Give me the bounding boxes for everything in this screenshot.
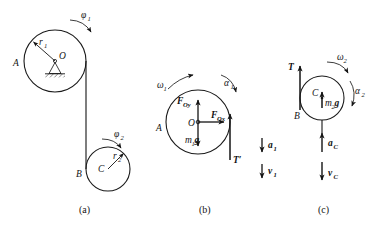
label-vc-subscript: C [334, 173, 339, 180]
panel-c: ω 2 α 2 T m 2 g C B a C v C (c) [288, 52, 366, 216]
phi2-curved-arrow [102, 139, 121, 148]
label-t: T [288, 62, 295, 72]
label-r2: r [113, 151, 117, 161]
label-vc: v [328, 168, 333, 178]
pivot-triangle [49, 63, 61, 74]
label-c-c: C [312, 88, 319, 98]
panel-b: ω 1 α 1 F Oy F Ox m 1 g O A T′ a 1 v 1 (… [155, 75, 277, 216]
label-ac: a [328, 138, 333, 148]
omega2-curved-arrow [327, 62, 348, 73]
label-alpha1-subscript: 1 [231, 83, 234, 90]
label-o-a: O [59, 51, 66, 61]
label-alpha2: α [355, 86, 361, 96]
label-v1-subscript: 1 [274, 171, 277, 178]
label-omega1-subscript: 1 [164, 85, 167, 92]
diagram-canvas: φ 1 φ 2 r 1 r 2 O A B C (a) [0, 0, 381, 231]
ground-hatching [45, 74, 65, 77]
label-r1-subscript: 1 [44, 42, 47, 49]
label-f-oy-subscript: Oy [183, 101, 191, 108]
label-b-c: B [294, 111, 300, 121]
alpha2-curved-arrow [350, 81, 354, 106]
omega1-curved-arrow [168, 75, 193, 89]
label-a1: a [268, 140, 273, 150]
label-v1: v [268, 166, 273, 176]
label-a-b: A [155, 123, 162, 133]
label-a-point: A [12, 58, 19, 68]
label-r2-subscript: 2 [118, 156, 122, 163]
label-phi2: φ [114, 129, 119, 139]
caption-b: (b) [199, 204, 211, 216]
label-a1-subscript: 1 [274, 145, 277, 152]
label-phi1: φ [81, 10, 86, 20]
label-ac-subscript: C [334, 143, 339, 150]
label-phi2-subscript: 2 [121, 134, 125, 141]
label-phi1-subscript: 1 [88, 15, 91, 22]
label-c-point: C [98, 164, 105, 174]
label-alpha2-subscript: 2 [362, 91, 366, 98]
label-f-ox-subscript: Ox [217, 115, 226, 122]
label-t-prime: T′ [233, 155, 242, 165]
label-m2g-g: g [334, 98, 340, 108]
physics-figure: φ 1 φ 2 r 1 r 2 O A B C (a) [0, 0, 381, 231]
caption-a: (a) [79, 204, 90, 216]
phi1-curved-arrow [70, 20, 91, 32]
label-r1: r [39, 37, 43, 47]
caption-c: (c) [318, 204, 329, 216]
label-o-b: O [188, 118, 195, 128]
label-m1g-g: g [194, 135, 200, 145]
label-b-point: B [76, 169, 82, 179]
label-omega2-subscript: 2 [344, 57, 348, 64]
panel-a: φ 1 φ 2 r 1 r 2 O A B C (a) [12, 10, 130, 216]
